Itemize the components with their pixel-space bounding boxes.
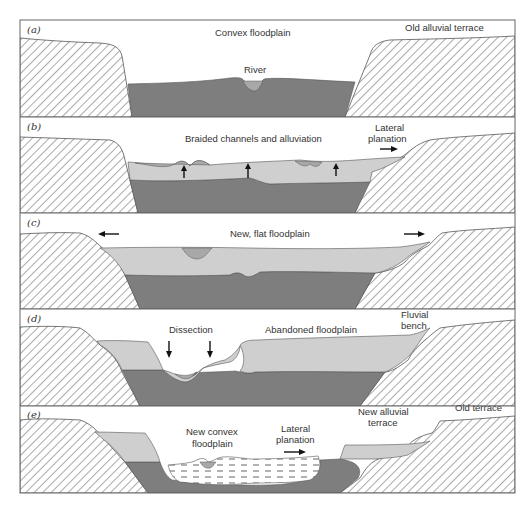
fluvial-bench-label-2: bench xyxy=(401,320,427,331)
new-alluvium xyxy=(128,157,405,184)
convex-floodplain-label: Convex floodplain xyxy=(215,27,291,38)
old-alluvium xyxy=(128,78,355,117)
dissection-label: Dissection xyxy=(169,324,213,335)
bedrock-left xyxy=(20,233,140,309)
panel-label-a: (a) xyxy=(27,24,41,35)
old-alluvial-terrace-label: Old alluvial terrace xyxy=(405,22,484,33)
lateral-planation-label-2: planation xyxy=(276,434,315,445)
arrow-down-icon xyxy=(166,341,172,358)
old-alluvium xyxy=(125,272,375,309)
new-alluvial-terrace-label-1: New alluvial xyxy=(358,406,409,417)
panel-c xyxy=(20,227,515,309)
new-alluvial-terrace-label-2: terrace xyxy=(368,417,398,428)
panel-e xyxy=(20,416,515,493)
arrow-right-icon xyxy=(284,449,306,455)
panel-b xyxy=(20,133,515,213)
panel-a xyxy=(20,36,515,117)
new-flat-floodplain-label: New, flat floodplain xyxy=(230,228,310,239)
new-convex-floodplain-label-1: New convex xyxy=(186,426,238,437)
lateral-planation-label-1: Lateral xyxy=(281,423,310,434)
bedrock-left xyxy=(20,38,132,117)
bedrock-right xyxy=(345,36,515,117)
braided-channels-label: Braided channels and alluviation xyxy=(185,133,322,144)
new-alluvium xyxy=(100,242,430,277)
panel-label-d: (d) xyxy=(27,313,41,324)
arrow-right-icon xyxy=(380,146,398,152)
arrow-left-icon xyxy=(98,231,119,237)
lateral-planation-label-2: planation xyxy=(368,133,407,144)
old-alluvium xyxy=(130,178,370,213)
panel-label-e: (e) xyxy=(27,409,41,420)
panel-label-b: (b) xyxy=(27,121,41,132)
bedrock-right xyxy=(355,133,515,213)
lateral-planation-label-1: Lateral xyxy=(375,122,404,133)
new-convex-floodplain xyxy=(168,456,320,485)
river-label: River xyxy=(244,64,266,75)
arrow-down-icon xyxy=(207,341,213,358)
new-convex-floodplain-label-2: floodplain xyxy=(192,438,233,449)
bedrock-left xyxy=(20,137,138,213)
old-alluvium xyxy=(122,370,385,406)
panel-label-c: (c) xyxy=(27,217,41,228)
fluvial-bench-label-1: Fluvial xyxy=(401,309,428,320)
old-terrace-label: Old terrace xyxy=(455,402,502,413)
abandoned-floodplain-label: Abandoned floodplain xyxy=(265,324,357,335)
floodplain-evolution-diagram: (a) Convex floodplain Old alluvial terra… xyxy=(0,0,526,510)
arrow-right-icon xyxy=(404,231,425,237)
